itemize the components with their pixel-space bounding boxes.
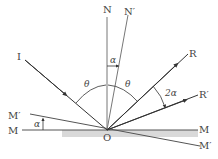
label-O: O	[103, 132, 111, 143]
label-R: R	[189, 48, 197, 59]
reflection-diagram: N N′ I R R′ M M M′ M′ O θ θ α α 2α	[0, 0, 218, 159]
label-N: N	[103, 4, 112, 15]
rotated-reflected-ray-arrow	[107, 100, 186, 130]
label-M-left: M	[8, 125, 18, 136]
label-theta-left: θ	[84, 79, 90, 89]
label-two-alpha: 2α	[164, 88, 177, 98]
label-theta-right: θ	[125, 79, 131, 89]
label-M-prime-right: M′	[199, 140, 212, 151]
mirror-surface-shade	[62, 130, 198, 137]
label-R-prime: R′	[199, 89, 210, 100]
label-alpha-top: α	[110, 55, 116, 65]
label-alpha-mirror: α	[34, 119, 40, 129]
label-I: I	[17, 51, 21, 62]
label-N-prime: N′	[124, 6, 136, 17]
label-M-prime-left: M′	[8, 110, 21, 121]
two-alpha-arc	[153, 86, 165, 107]
theta-left-arc	[76, 85, 106, 103]
label-M-right: M	[199, 124, 209, 135]
